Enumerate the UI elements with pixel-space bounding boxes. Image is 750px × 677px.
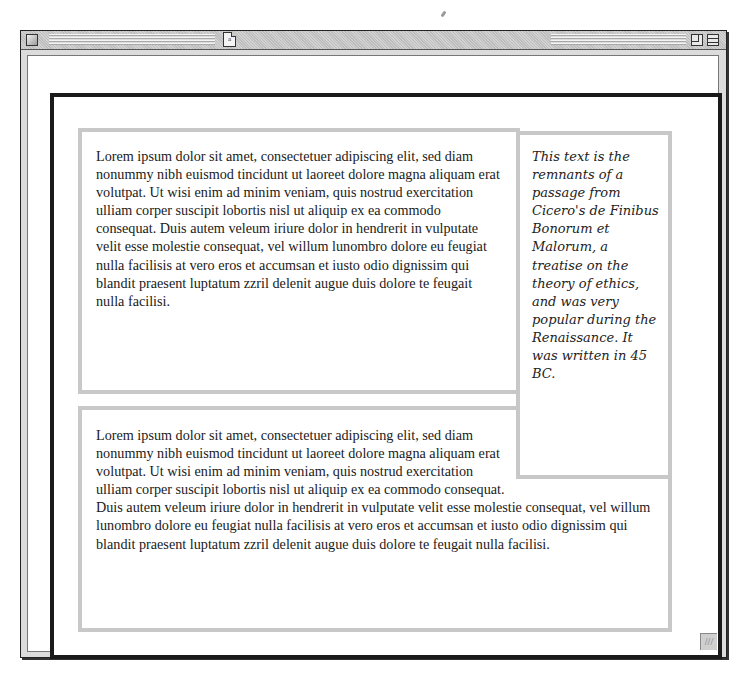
title-bar-stripes-left xyxy=(49,34,215,45)
close-box-icon[interactable] xyxy=(26,34,38,46)
zoom-box-icon[interactable] xyxy=(691,34,703,46)
title-bar-stripes-right xyxy=(551,34,686,45)
paragraph-1-text: Lorem ipsum dolor sit amet, consectetuer… xyxy=(96,147,502,310)
aside-text: This text is the remnants of a passage f… xyxy=(532,148,660,383)
floated-aside-box: This text is the remnants of a passage f… xyxy=(516,131,672,479)
stray-cursor-mark xyxy=(441,11,447,18)
title-bar[interactable]: a xyxy=(21,31,726,50)
resize-grip-icon[interactable]: /// xyxy=(700,633,717,650)
browser-window: a Lorem ipsum dolor sit amet, consectetu… xyxy=(20,30,727,658)
document-icon: a xyxy=(223,32,236,47)
content-area: Lorem ipsum dolor sit amet, consectetuer… xyxy=(27,55,719,652)
collapse-box-icon[interactable] xyxy=(707,34,719,46)
paragraph-box-1: Lorem ipsum dolor sit amet, consectetuer… xyxy=(78,128,520,394)
outer-container: Lorem ipsum dolor sit amet, consectetuer… xyxy=(50,93,722,659)
